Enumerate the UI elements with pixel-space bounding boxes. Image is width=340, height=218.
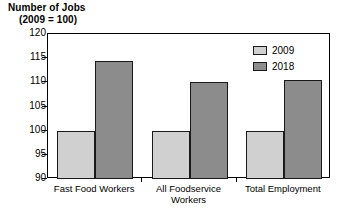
x-axis-tick-mark — [236, 178, 237, 182]
bar-2018-group-2 — [190, 82, 228, 179]
bar-2009-group-3 — [246, 131, 284, 179]
bar-chart: Number of Jobs (2009 = 100) 909510010511… — [0, 0, 340, 218]
legend-swatch-icon — [253, 62, 267, 71]
y-axis-tick-label: 90 — [6, 173, 46, 183]
chart-subtitle: (2009 = 100) — [8, 14, 86, 26]
category-label: All Foodservice Workers — [141, 183, 235, 205]
y-axis-tick-label: 100 — [6, 125, 46, 135]
legend-item-2018: 2018 — [253, 60, 294, 73]
legend-label: 2009 — [272, 46, 294, 56]
y-axis-tick-label: 120 — [6, 28, 46, 38]
bar-2018-group-1 — [95, 61, 133, 179]
legend-label: 2018 — [272, 62, 294, 72]
legend: 20092018 — [253, 44, 294, 76]
y-axis-tick-mark — [42, 178, 47, 179]
legend-item-2009: 2009 — [253, 44, 294, 57]
category-label: Fast Food Workers — [47, 183, 141, 194]
y-axis-tick-label: 105 — [6, 101, 46, 111]
bar-2009-group-2 — [152, 131, 190, 179]
bar-2009-group-1 — [57, 131, 95, 179]
chart-title: Number of Jobs — [8, 2, 86, 14]
x-axis-tick-mark — [141, 178, 142, 182]
bar-2018-group-3 — [284, 80, 322, 179]
chart-title-block: Number of Jobs (2009 = 100) — [8, 2, 86, 25]
y-axis-tick-label: 95 — [6, 149, 46, 159]
legend-swatch-icon — [253, 46, 267, 55]
y-axis-tick-label: 115 — [6, 52, 46, 62]
category-label: Total Employment — [236, 183, 330, 194]
y-axis-tick-label: 110 — [6, 76, 46, 86]
